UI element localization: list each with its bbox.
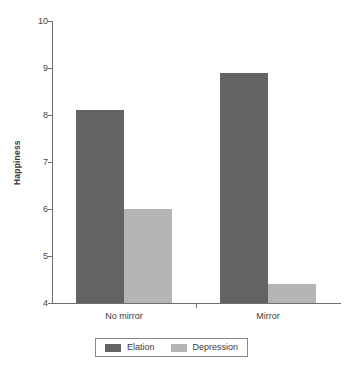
y-tick-mark xyxy=(48,162,53,163)
y-tick-label: 10 xyxy=(38,17,48,26)
x-axis-label-mirror: Mirror xyxy=(256,311,280,321)
bar-mirror-elation xyxy=(220,73,268,303)
y-tick-mark xyxy=(48,256,53,257)
legend-entry-elation: Elation xyxy=(105,343,155,352)
y-tick-label: 9 xyxy=(43,64,48,73)
bar-mirror-depression xyxy=(268,284,316,303)
legend-swatch-depression xyxy=(171,344,187,352)
bar-no-mirror-depression xyxy=(124,209,172,303)
x-axis-label-no-mirror: No mirror xyxy=(105,311,143,321)
y-axis-title: Happiness xyxy=(8,118,26,208)
bar-no-mirror-elation xyxy=(76,110,124,303)
bar-chart-figure: Happiness 45678910 No mirrorMirror Elati… xyxy=(0,0,355,370)
y-tick-label: 6 xyxy=(43,205,48,214)
y-tick-mark xyxy=(48,21,53,22)
y-tick-mark xyxy=(48,68,53,69)
legend-label-depression: Depression xyxy=(193,343,239,352)
y-tick-label: 8 xyxy=(43,111,48,120)
legend-entry-depression: Depression xyxy=(171,343,239,352)
y-tick-label: 7 xyxy=(43,158,48,167)
y-tick-mark xyxy=(48,303,53,304)
y-tick-mark xyxy=(48,209,53,210)
y-tick-label: 5 xyxy=(43,252,48,261)
y-tick-label: 4 xyxy=(43,299,48,308)
legend-label-elation: Elation xyxy=(127,343,155,352)
legend-swatch-elation xyxy=(105,344,121,352)
y-tick-mark xyxy=(48,115,53,116)
x-tick-mark xyxy=(196,303,197,308)
plot-area: 45678910 No mirrorMirror xyxy=(52,21,340,303)
chart-legend: Elation Depression xyxy=(95,338,248,357)
